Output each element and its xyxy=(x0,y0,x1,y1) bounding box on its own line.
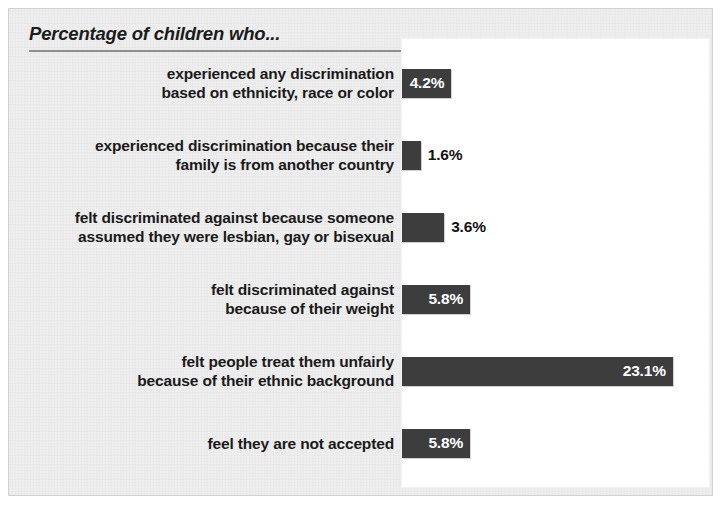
bar: 23.1% xyxy=(402,357,673,386)
bar-category-label: felt people treat them unfairly because … xyxy=(9,352,394,390)
bar-wrapper: 3.6% xyxy=(402,205,486,249)
bar-row: felt people treat them unfairly because … xyxy=(9,349,713,393)
chart-card: Percentage of children who... experience… xyxy=(8,8,713,496)
bar-row: experienced discrimination because their… xyxy=(9,133,713,177)
bar-rows-container: experienced any discrimination based on … xyxy=(9,39,713,487)
bar-value-label: 5.8% xyxy=(428,290,470,308)
bar-value-label: 4.2% xyxy=(410,74,452,92)
bar-row: experienced any discrimination based on … xyxy=(9,61,713,105)
bar-wrapper: 1.6% xyxy=(402,133,462,177)
bar-wrapper: 5.8% xyxy=(402,277,470,321)
bar: 5.8% xyxy=(402,285,470,314)
bar-wrapper: 4.2% xyxy=(402,61,451,105)
bar-category-label: felt discriminated against because of th… xyxy=(9,280,394,318)
bar-category-label: felt discriminated against because someo… xyxy=(9,208,394,246)
bar xyxy=(402,141,421,170)
bar-value-label: 3.6% xyxy=(451,218,486,236)
bar-row: felt discriminated against because of th… xyxy=(9,277,713,321)
bar: 5.8% xyxy=(402,429,470,458)
bar-value-label: 5.8% xyxy=(428,434,470,452)
bar-row: feel they are not accepted5.8% xyxy=(9,421,713,465)
bar-row: felt discriminated against because someo… xyxy=(9,205,713,249)
bar-wrapper: 23.1% xyxy=(402,349,673,393)
bar-value-label: 23.1% xyxy=(623,362,673,380)
bar-value-label: 1.6% xyxy=(428,146,463,164)
bar xyxy=(402,213,444,242)
bar-category-label: feel they are not accepted xyxy=(9,434,394,453)
bar: 4.2% xyxy=(402,69,451,98)
bar-category-label: experienced any discrimination based on … xyxy=(9,64,394,102)
bar-category-label: experienced discrimination because their… xyxy=(9,136,394,174)
bar-wrapper: 5.8% xyxy=(402,421,470,465)
